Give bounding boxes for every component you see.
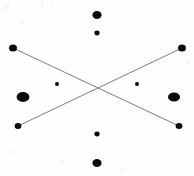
- marker-top-outer: [92, 11, 101, 19]
- marker-lower-left-end: [15, 123, 22, 129]
- diagonal-up-right-line: [18, 48, 182, 126]
- marker-bottom-outer: [92, 159, 101, 167]
- marker-lower-right-end: [176, 123, 183, 129]
- marker-center-left-tiny: [55, 82, 59, 86]
- marker-mid-left-large: [17, 92, 30, 102]
- dot-pattern-figure: [0, 0, 194, 176]
- marker-top-inner: [94, 31, 99, 36]
- marker-mid-right-large: [168, 92, 180, 101]
- marker-center-right-tiny: [135, 82, 139, 86]
- marker-bottom-inner: [94, 132, 99, 137]
- diagonal-down-right-line: [13, 48, 179, 126]
- marker-group: [9, 11, 186, 167]
- figure-canvas: [0, 0, 194, 176]
- marker-upper-left-end: [9, 44, 17, 51]
- line-group: [13, 48, 182, 126]
- marker-upper-right-end: [178, 44, 186, 51]
